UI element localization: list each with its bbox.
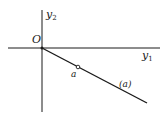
horizontal-axis-label: y1 [142,50,153,63]
point-a-label: a [71,70,76,79]
diagram-canvas [0,0,164,116]
horizontal-axis-label-sub: 1 [148,55,152,63]
point-a-label-text: a [71,69,76,79]
point-a-marker [76,65,80,69]
origin-dot [41,47,44,50]
line-a-label-text: (a) [119,79,131,89]
vertical-axis-label: y2 [46,9,57,22]
line-a-label: (a) [119,80,131,89]
origin-label-text: O [32,33,41,46]
line-a [42,48,147,103]
vertical-axis-label-sub: 2 [52,14,56,22]
origin-label: O [32,34,41,45]
